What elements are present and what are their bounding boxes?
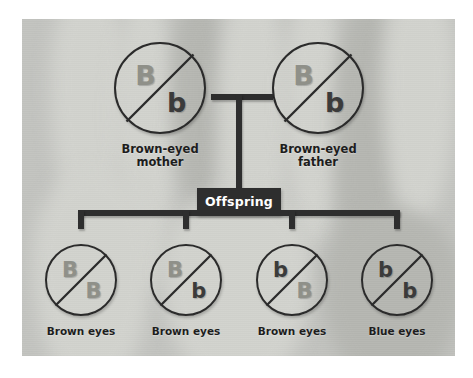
- child-3-allele-bottom: B: [296, 281, 312, 302]
- mother-genotype-circle: B b: [114, 42, 206, 134]
- child-3-slash-icon: [258, 246, 326, 314]
- child-3-genotype-circle: b B: [256, 244, 328, 316]
- child-1-allele-bottom: B: [85, 281, 101, 302]
- child-4-caption: Blue eyes: [347, 325, 447, 337]
- parents-descent-line: [236, 94, 242, 189]
- child-1-slash-icon: [47, 246, 115, 314]
- child-2-allele-bottom: b: [191, 281, 206, 302]
- child-4-allele-bottom: b: [402, 281, 417, 302]
- father-genotype-circle: B b: [272, 42, 364, 134]
- father-allele-bottom: b: [325, 89, 344, 116]
- mother-slash-icon: [116, 44, 204, 132]
- sibship-drop-2: [183, 210, 189, 229]
- child-4-allele-top: b: [378, 260, 393, 281]
- pedigree-diagram: B b Brown-eyed mother B b Brown-eyed fat…: [0, 0, 473, 378]
- sibship-bar: [78, 210, 400, 216]
- child-2-allele-top: B: [167, 260, 183, 281]
- parents-union-bar: [211, 94, 273, 100]
- child-1-allele-top: B: [62, 260, 78, 281]
- mother-allele-bottom: b: [167, 89, 186, 116]
- child-3-allele-top: b: [273, 260, 288, 281]
- child-2-caption: Brown eyes: [136, 325, 236, 337]
- father-caption-line1: Brown-eyed: [258, 143, 378, 156]
- child-3-caption: Brown eyes: [242, 325, 342, 337]
- child-4-genotype-circle: b b: [361, 244, 433, 316]
- sibship-drop-3: [289, 210, 295, 229]
- sibship-drop-1: [78, 210, 84, 229]
- father-caption: Brown-eyed father: [258, 143, 378, 170]
- mother-caption: Brown-eyed mother: [100, 143, 220, 170]
- mother-caption-line1: Brown-eyed: [100, 143, 220, 156]
- offspring-label-text: Offspring: [205, 194, 273, 209]
- genetics-pedigree-figure: B b Brown-eyed mother B b Brown-eyed fat…: [0, 0, 473, 378]
- mother-allele-top: B: [135, 62, 156, 89]
- father-allele-top: B: [293, 62, 314, 89]
- mother-caption-line2: mother: [100, 156, 220, 169]
- child-2-genotype-circle: B b: [150, 244, 222, 316]
- father-slash-icon: [274, 44, 362, 132]
- child-1-caption: Brown eyes: [31, 325, 131, 337]
- child-2-slash-icon: [152, 246, 220, 314]
- father-caption-line2: father: [258, 156, 378, 169]
- child-4-slash-icon: [363, 246, 431, 314]
- sibship-drop-4: [394, 210, 400, 229]
- child-1-genotype-circle: B B: [45, 244, 117, 316]
